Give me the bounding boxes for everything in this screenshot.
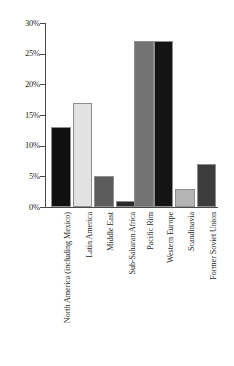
bar xyxy=(94,176,114,207)
y-axis-tick-label: 25% xyxy=(2,49,40,58)
x-axis-category-label: North America (including Mexico) xyxy=(64,212,72,323)
y-axis-tick xyxy=(40,207,46,208)
y-axis-tick-label: 10% xyxy=(2,141,40,150)
y-axis-tick xyxy=(40,23,46,24)
y-axis-tick xyxy=(40,176,46,177)
bars-container xyxy=(46,23,218,207)
x-axis-category-label: Pacific Rim xyxy=(147,212,155,250)
y-axis-tick-label: 0% xyxy=(2,203,40,212)
y-axis-tick-label: 30% xyxy=(2,19,40,28)
y-axis-tick xyxy=(40,54,46,55)
y-axis-tick-label: 15% xyxy=(2,111,40,120)
x-axis-category-labels: North America (including Mexico)Latin Am… xyxy=(46,212,218,362)
bar xyxy=(197,164,217,207)
bar-chart-figure: 30%25%20%15%10%5%0% North America (inclu… xyxy=(0,0,234,366)
bar xyxy=(175,189,195,207)
bar xyxy=(73,103,93,207)
bar xyxy=(134,41,154,207)
y-axis-tick xyxy=(40,146,46,147)
x-axis-category-label: Sub-Saharan Africa xyxy=(129,212,137,275)
x-axis-category-label: Former Soviet Union xyxy=(210,212,218,280)
bar xyxy=(154,41,174,207)
x-axis-category-label: Middle East xyxy=(107,212,115,251)
bar xyxy=(51,127,71,207)
x-axis-category-label: Latin America xyxy=(86,212,94,258)
y-axis-tick-label: 20% xyxy=(2,80,40,89)
x-axis-line xyxy=(45,207,218,208)
bar xyxy=(116,201,136,207)
y-axis-tick-label: 5% xyxy=(2,172,40,181)
x-axis-category-label: Western Europe xyxy=(167,212,175,263)
y-axis-tick-labels: 30%25%20%15%10%5%0% xyxy=(0,0,40,366)
y-axis-tick xyxy=(40,84,46,85)
y-axis-tick xyxy=(40,115,46,116)
x-axis-category-label: Scandinavia xyxy=(188,212,196,251)
